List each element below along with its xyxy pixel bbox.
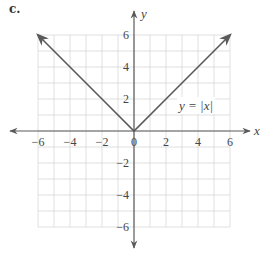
x-tick-label: 6: [227, 135, 233, 149]
y-tick-label: −6: [116, 220, 129, 234]
function-label: y = |x|: [177, 98, 213, 113]
y-tick-label: 2: [123, 92, 129, 106]
x-tick-label: 2: [163, 135, 169, 149]
y-tick-label: −4: [116, 188, 129, 202]
x-tick-label: −4: [64, 135, 77, 149]
x-axis-label: x: [253, 123, 260, 138]
x-tick-label: −2: [96, 135, 109, 149]
x-tick-label: 0: [131, 135, 137, 149]
y-tick-label: 4: [123, 60, 129, 74]
y-tick-label: 6: [123, 28, 129, 42]
y-tick-label: −2: [116, 156, 129, 170]
axis-labels: y = |x|xy: [139, 6, 260, 138]
x-tick-label: −6: [32, 135, 45, 149]
y-axis-label: y: [139, 6, 147, 21]
x-tick-label: 4: [195, 135, 201, 149]
graph-abs-x: −6−4−20246−6−4−2246 y = |x|xy: [0, 0, 264, 267]
